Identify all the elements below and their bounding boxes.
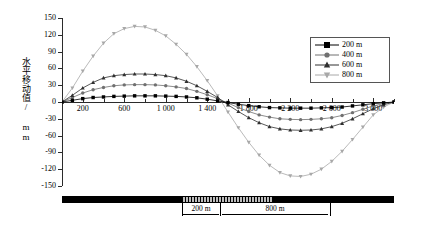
data-point-marker	[257, 105, 260, 108]
data-point-marker	[133, 83, 136, 86]
data-point-marker	[247, 110, 250, 113]
legend-label: 400 m	[342, 51, 362, 59]
y-tick-label: 60	[48, 64, 56, 72]
data-point-marker	[289, 106, 292, 109]
chart-figure: 水平移动值/ mm 1501209060300-30-60-90-120-150…	[0, 0, 422, 228]
legend-item[interactable]: 200 m	[314, 40, 386, 50]
data-point-marker	[154, 83, 157, 86]
x-minor-tick	[394, 99, 395, 102]
y-tick-label: -30	[45, 115, 56, 123]
y-tick-label: 30	[48, 81, 56, 89]
data-point-marker	[392, 100, 394, 103]
y-tick-label: 0	[52, 98, 56, 106]
data-point-marker	[268, 115, 271, 118]
data-point-marker	[81, 91, 84, 94]
y-tick-label: 150	[44, 14, 56, 22]
data-point-marker	[257, 113, 260, 116]
y-tick-label: -150	[41, 182, 56, 190]
data-point-marker	[112, 95, 115, 98]
data-point-marker	[185, 87, 188, 90]
data-point-marker	[226, 101, 229, 104]
mining-face-hatch	[182, 196, 272, 203]
y-tick-label: -60	[45, 132, 56, 140]
data-point-marker	[123, 94, 126, 97]
data-point-marker	[340, 105, 343, 108]
y-tick	[58, 186, 62, 187]
y-tick-label: 90	[48, 48, 56, 56]
data-point-marker	[164, 94, 167, 97]
data-point-marker	[216, 99, 219, 102]
legend: 200 m 400 m 600 m 800 m	[310, 37, 390, 83]
data-point-marker	[382, 101, 385, 104]
data-point-marker	[91, 88, 94, 91]
data-point-marker	[372, 102, 375, 105]
legend-item[interactable]: 600 m	[314, 60, 386, 70]
data-point-marker	[237, 106, 240, 109]
data-point-marker	[195, 90, 198, 93]
data-point-marker	[153, 29, 157, 33]
y-tick-label: 120	[44, 31, 56, 39]
data-point-marker	[351, 111, 354, 114]
data-point-marker	[299, 106, 302, 109]
data-point-marker	[247, 116, 251, 120]
data-point-marker	[206, 98, 209, 101]
data-point-marker	[299, 118, 302, 121]
data-point-marker	[185, 95, 188, 98]
legend-item[interactable]: 400 m	[314, 50, 386, 60]
data-point-marker	[309, 118, 312, 121]
data-point-marker	[278, 117, 281, 120]
data-point-marker	[340, 114, 343, 117]
data-point-marker	[143, 83, 146, 86]
legend-symbol-circle	[314, 50, 340, 60]
legend-label: 600 m	[342, 61, 362, 69]
data-point-marker	[361, 103, 364, 106]
data-point-marker	[236, 109, 240, 113]
dim-line-right	[222, 214, 328, 215]
data-point-marker	[247, 104, 250, 107]
data-point-marker	[81, 86, 85, 90]
data-point-marker	[164, 84, 167, 87]
data-point-marker	[320, 106, 323, 109]
data-point-marker	[289, 118, 292, 121]
data-point-marker	[174, 85, 177, 88]
data-point-marker	[330, 116, 333, 119]
dim-label-left: 200 m	[191, 204, 212, 213]
data-point-marker	[278, 106, 281, 109]
seam-bar	[62, 196, 394, 203]
data-point-marker	[71, 99, 74, 102]
y-axis-title: 水平移动值/ mm	[18, 44, 34, 154]
data-point-marker	[174, 95, 177, 98]
data-point-marker	[361, 108, 364, 111]
data-point-marker	[330, 106, 333, 109]
legend-symbol-triangle-down	[314, 70, 340, 80]
data-point-marker	[195, 96, 198, 99]
dim-tick	[330, 203, 331, 216]
data-point-marker	[62, 100, 64, 103]
data-point-marker	[268, 164, 272, 168]
data-point-marker	[206, 93, 209, 96]
data-point-marker	[81, 97, 84, 100]
data-point-marker	[91, 96, 94, 99]
data-point-marker	[205, 89, 209, 93]
legend-symbol-square	[314, 40, 340, 50]
data-point-marker	[102, 86, 105, 89]
legend-item[interactable]: 800 m	[314, 70, 386, 80]
data-point-marker	[309, 106, 312, 109]
dimension-annotations: 200 m 800 m	[182, 203, 332, 217]
legend-label: 200 m	[342, 41, 362, 49]
data-point-marker	[351, 104, 354, 107]
data-point-marker	[143, 94, 146, 97]
dim-label-right: 800 m	[265, 204, 286, 213]
legend-label: 800 m	[342, 71, 362, 79]
dim-tick	[182, 203, 183, 216]
data-point-marker	[133, 94, 136, 97]
dim-tick	[220, 203, 221, 216]
y-tick-label: -90	[45, 148, 56, 156]
data-point-marker	[123, 83, 126, 86]
data-point-marker	[154, 94, 157, 97]
y-tick-label: -120	[41, 165, 56, 173]
data-point-marker	[237, 103, 240, 106]
data-point-marker	[70, 93, 74, 97]
data-point-marker	[320, 117, 323, 120]
data-point-marker	[268, 106, 271, 109]
